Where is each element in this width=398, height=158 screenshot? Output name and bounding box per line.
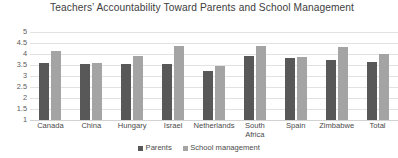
bar <box>297 57 307 120</box>
bar <box>133 56 143 120</box>
bar <box>39 63 49 120</box>
y-axis: 54.543.532.521.51 <box>0 32 27 120</box>
x-axis-category-label: Netherlands <box>194 121 235 130</box>
legend-label: Parents <box>146 144 172 152</box>
bar <box>51 51 61 120</box>
y-axis-tick-label: 4.5 <box>0 39 27 46</box>
x-axis-category-label: Total <box>357 121 398 130</box>
bar-group <box>117 32 147 120</box>
x-axis-category-label: Canada <box>30 121 71 130</box>
legend-label: School management <box>190 144 260 152</box>
y-axis-tick-label: 1 <box>0 116 27 123</box>
bar <box>162 64 172 120</box>
bar <box>121 64 131 120</box>
bar <box>256 46 266 120</box>
chart-legend: ParentsSchool management <box>0 144 398 152</box>
y-axis-tick-label: 3.5 <box>0 61 27 68</box>
bar-group <box>240 32 270 120</box>
y-axis-tick-label: 3 <box>0 72 27 79</box>
bar-group <box>76 32 106 120</box>
legend-swatch-icon <box>138 146 143 151</box>
bar <box>244 56 254 120</box>
bar <box>338 47 348 120</box>
x-axis-category-label: Hungary <box>112 121 153 130</box>
x-axis-category-label: Israel <box>153 121 194 130</box>
x-axis-category-label: Spain <box>275 121 316 130</box>
bar-group <box>199 32 229 120</box>
x-axis-category-label: Zimbabwe <box>316 121 357 130</box>
bar-group <box>158 32 188 120</box>
legend-item[interactable]: Parents <box>138 144 172 152</box>
bar <box>203 71 213 121</box>
bar-group <box>35 32 65 120</box>
bar <box>367 62 377 120</box>
bar <box>80 64 90 120</box>
bar-group <box>363 32 393 120</box>
bar-group <box>322 32 352 120</box>
y-axis-tick-label: 4 <box>0 50 27 57</box>
legend-item[interactable]: School management <box>183 144 260 152</box>
x-axis-category-label: China <box>71 121 112 130</box>
y-axis-tick-label: 5 <box>0 28 27 35</box>
bar <box>215 66 225 120</box>
bar <box>326 60 336 121</box>
y-axis-tick-label: 1.5 <box>0 105 27 112</box>
bar <box>174 46 184 120</box>
x-axis-labels: CanadaChinaHungaryIsraelNetherlandsSouth… <box>30 121 398 143</box>
chart-title: Teachers’ Accountability Toward Parents … <box>42 1 362 14</box>
bar <box>285 58 295 120</box>
legend-swatch-icon <box>183 146 188 151</box>
x-axis-category-label: South Africa <box>234 121 275 139</box>
y-axis-tick-label: 2 <box>0 94 27 101</box>
y-axis-tick-label: 2.5 <box>0 83 27 90</box>
bar <box>92 63 102 120</box>
bar <box>379 54 389 120</box>
bar-group <box>281 32 311 120</box>
bar-chart: Teachers’ Accountability Toward Parents … <box>0 0 398 158</box>
bars-layer <box>30 32 398 120</box>
